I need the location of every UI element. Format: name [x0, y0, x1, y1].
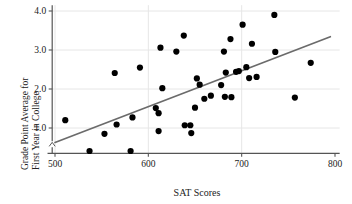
x-tick-label: 600 — [141, 159, 156, 169]
data-point — [128, 148, 134, 154]
data-points — [62, 12, 314, 154]
data-point — [62, 117, 68, 123]
data-point — [114, 121, 120, 127]
x-tick-label: 700 — [235, 159, 250, 169]
data-point — [254, 74, 260, 80]
y-tick-label: 3.0 — [34, 45, 46, 55]
data-point — [292, 94, 298, 100]
y-tick-label: 4.0 — [34, 6, 46, 16]
data-point — [192, 105, 198, 111]
data-point — [208, 93, 214, 99]
data-point — [272, 49, 278, 55]
data-point — [137, 64, 143, 70]
x-axis-title: SAT Scores — [174, 187, 221, 198]
data-point — [308, 60, 314, 66]
data-point — [249, 41, 255, 47]
y-axis-label: Grade Point Average for First Year in Co… — [20, 78, 42, 170]
data-point — [86, 148, 92, 154]
axis-break-marker — [49, 142, 55, 146]
data-point — [218, 82, 224, 88]
data-point — [159, 85, 165, 91]
tick-labels: 1.02.03.04.0500600700800 — [34, 6, 342, 169]
data-point — [182, 122, 188, 128]
y-axis-label-wrap: Grade Point Average for First Year in Co… — [0, 0, 30, 180]
data-point — [228, 94, 234, 100]
data-point — [101, 131, 107, 137]
data-point — [221, 48, 227, 54]
data-point — [271, 12, 277, 18]
data-point — [236, 68, 242, 74]
x-tick-label: 800 — [328, 159, 343, 169]
data-point — [156, 110, 162, 116]
data-point — [112, 70, 118, 76]
data-point — [181, 32, 187, 38]
data-point — [129, 114, 135, 120]
data-point — [156, 128, 162, 134]
data-point — [187, 122, 193, 128]
x-tick-label: 500 — [48, 159, 63, 169]
data-point — [222, 94, 228, 100]
data-point — [223, 70, 229, 76]
data-point — [201, 96, 207, 102]
data-point — [246, 75, 252, 81]
data-point — [188, 130, 194, 136]
data-point — [173, 48, 179, 54]
scatter-plot-figure: Grade Point Average for First Year in Co… — [0, 0, 352, 204]
y-axis-label-line1: Grade Point Average for — [20, 78, 31, 170]
data-point — [157, 45, 163, 51]
data-point — [194, 75, 200, 81]
y-axis-label-line2: First Year in College — [31, 78, 42, 170]
plot-canvas: 1.02.03.04.0500600700800 SAT Scores — [0, 0, 352, 204]
data-point — [197, 82, 203, 88]
data-point — [240, 22, 246, 28]
data-point — [243, 64, 249, 70]
data-point — [227, 36, 233, 42]
